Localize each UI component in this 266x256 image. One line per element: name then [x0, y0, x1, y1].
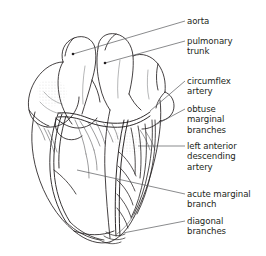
appendage-shading	[38, 80, 67, 106]
leader-line-aorta	[73, 21, 185, 54]
leader-line-circumflex-artery	[150, 81, 185, 111]
label-obtuse-marginal-branches: obtuse marginal branches	[187, 104, 226, 135]
leader-line-pulmonary-trunk	[105, 41, 185, 63]
leader-lines	[72, 21, 185, 233]
heart-anatomy-figure: aortapulmonary trunkcircumflex arteryobt…	[0, 0, 266, 256]
leader-dot-aorta	[72, 53, 75, 56]
acute-marginal-branch-vessel	[50, 114, 70, 222]
circumflex-artery-vessel	[58, 112, 150, 127]
label-acute-marginal-branch: acute marginal branch	[187, 189, 251, 210]
label-aorta: aorta	[187, 16, 209, 26]
leader-line-acute-marginal-branch	[77, 170, 185, 194]
label-diagonal-branches: diagonal branches	[187, 216, 226, 237]
aorta-outline	[58, 37, 100, 124]
label-circumflex-artery: circumflex artery	[187, 76, 231, 97]
label-pulmonary-trunk: pulmonary trunk	[187, 36, 233, 57]
leader-line-diagonal-branches	[123, 221, 185, 233]
leader-line-obtuse-marginal-branches	[157, 109, 185, 124]
leader-dot-pulmonary-trunk	[104, 62, 107, 65]
label-left-anterior-descending-artery: left anterior descending artery	[187, 141, 237, 172]
